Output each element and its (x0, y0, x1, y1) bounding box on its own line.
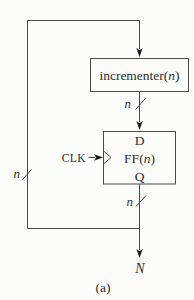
figure-caption: (a) (96, 280, 111, 295)
output-arrowhead (136, 249, 142, 258)
incrementer-ff-diagram: incrementer(n) n D FF(n) Q CLK n n N (a) (0, 0, 194, 300)
incrementer-input-arrowhead (136, 48, 142, 57)
circuit-diagram-figure: incrementer(n) n D FF(n) Q CLK n n N (a) (0, 0, 194, 300)
ff-d-port-label: D (135, 133, 145, 148)
bus-width-label-feedback: n (14, 166, 21, 181)
ff-label: FF(n) (124, 151, 155, 166)
ff-q-port-label: Q (135, 169, 145, 184)
output-label: N (134, 261, 145, 276)
ff-input-arrowhead (136, 121, 142, 130)
feedback-loop-wires (28, 21, 140, 229)
bus-width-slash-output (136, 196, 146, 207)
bus-width-label-output: n (127, 194, 134, 209)
bus-width-label-top: n (125, 96, 132, 111)
clk-edge-triangle-icon (104, 151, 112, 164)
bus-width-slash-top (136, 99, 146, 110)
incrementer-label: incrementer(n) (99, 68, 179, 83)
clk-label: CLK (62, 152, 86, 164)
